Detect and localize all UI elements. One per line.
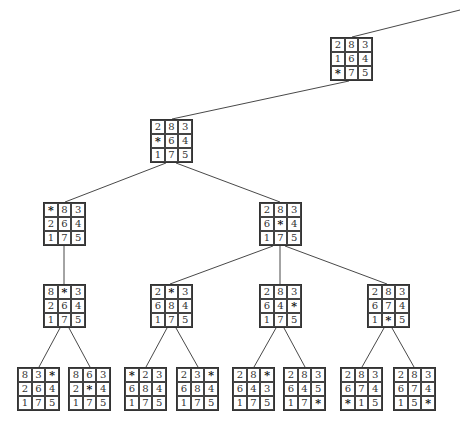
tile: 7 (355, 382, 369, 396)
tile: 1 (284, 396, 298, 410)
tree-edge (284, 328, 305, 367)
tile: 4 (287, 217, 301, 231)
puzzle-state-n12: 28*643175 (232, 367, 275, 411)
tile: 5 (358, 66, 372, 80)
tile: 1 (394, 396, 408, 410)
tile: 8 (58, 203, 72, 217)
tile: 8 (345, 38, 359, 52)
tile: 3 (260, 382, 274, 396)
puzzle-state-n0: 283164*75 (330, 37, 373, 81)
tree-edge (39, 328, 60, 367)
tile: 6 (394, 382, 408, 396)
tile: 4 (96, 382, 110, 396)
tile: 7 (83, 396, 97, 410)
tile: 4 (368, 382, 382, 396)
tile: 6 (260, 217, 274, 231)
tile: 4 (421, 382, 435, 396)
tile: 3 (178, 285, 192, 299)
tile: 4 (298, 382, 312, 396)
tile: 2 (341, 368, 355, 382)
tile: 7 (298, 396, 312, 410)
tile: 7 (274, 313, 288, 327)
tile: 2 (284, 368, 298, 382)
tile: 4 (71, 299, 85, 313)
blank-tile: * (204, 368, 218, 382)
tile: 3 (287, 285, 301, 299)
tile: 2 (44, 217, 58, 231)
tree-edge (146, 328, 167, 367)
tile: 6 (260, 299, 274, 313)
tile: 4 (247, 382, 261, 396)
tile: 3 (178, 120, 192, 134)
tile: 3 (358, 38, 372, 52)
puzzle-state-n2: *83264175 (43, 202, 86, 246)
tile: 7 (382, 299, 396, 313)
tile: 2 (18, 382, 32, 396)
tile: 1 (18, 396, 32, 410)
puzzle-state-n15: 28367415* (393, 367, 436, 411)
tile: 8 (247, 368, 261, 382)
tile: 7 (139, 396, 153, 410)
tile: 5 (408, 396, 422, 410)
blank-tile: * (382, 313, 396, 327)
tile: 8 (165, 299, 179, 313)
tile: 6 (233, 382, 247, 396)
tile: 1 (44, 231, 58, 245)
blank-tile: * (421, 396, 435, 410)
tile: 3 (32, 368, 46, 382)
tile: 5 (178, 313, 192, 327)
tile: 4 (178, 299, 192, 313)
tile: 3 (421, 368, 435, 382)
puzzle-state-n7: 2836741*5 (367, 284, 410, 328)
tile: 6 (58, 217, 72, 231)
tile: 7 (247, 396, 261, 410)
tile: 2 (151, 120, 165, 134)
tile: 6 (165, 134, 179, 148)
tree-edge (362, 328, 384, 367)
tile: 5 (287, 313, 301, 327)
tile: 2 (177, 368, 191, 382)
tile: 1 (125, 396, 139, 410)
tile: 8 (298, 368, 312, 382)
tile: 2 (151, 285, 165, 299)
tile: 8 (139, 382, 153, 396)
puzzle-state-n9: 8632*4175 (68, 367, 111, 411)
puzzle-state-n14: 283674*15 (340, 367, 383, 411)
tile: 3 (287, 203, 301, 217)
tile: 5 (204, 396, 218, 410)
tile: 8 (274, 285, 288, 299)
tile: 4 (71, 217, 85, 231)
blank-tile: * (151, 134, 165, 148)
tile: 4 (152, 382, 166, 396)
blank-tile: * (274, 217, 288, 231)
tile: 2 (260, 203, 274, 217)
tile: 2 (394, 368, 408, 382)
tile: 4 (274, 299, 288, 313)
tile: 1 (260, 313, 274, 327)
tile: 7 (274, 231, 288, 245)
tile: 8 (191, 382, 205, 396)
tree-edge (176, 163, 280, 202)
tile: 7 (165, 313, 179, 327)
tile: 6 (32, 382, 46, 396)
blank-tile: * (58, 285, 72, 299)
blank-tile: * (287, 299, 301, 313)
tile: 5 (287, 231, 301, 245)
puzzle-state-n8: 83*264175 (17, 367, 60, 411)
tile: 5 (178, 148, 192, 162)
tile: 8 (69, 368, 83, 382)
tile: 1 (69, 396, 83, 410)
tile: 7 (408, 382, 422, 396)
tile: 5 (96, 396, 110, 410)
tile: 8 (382, 285, 396, 299)
tile: 1 (260, 231, 274, 245)
tile: 5 (45, 396, 59, 410)
tree-edge (69, 328, 90, 367)
tile: 7 (58, 231, 72, 245)
tile: 3 (368, 368, 382, 382)
blank-tile: * (311, 396, 325, 410)
tile: 1 (355, 396, 369, 410)
tile: 2 (260, 285, 274, 299)
tile: 3 (311, 368, 325, 382)
tile: 4 (358, 52, 372, 66)
